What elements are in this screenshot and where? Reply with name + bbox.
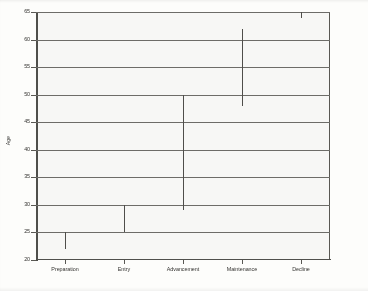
scan-edge-bottom bbox=[0, 287, 368, 291]
y-tick bbox=[31, 150, 36, 151]
y-tick-label: 35 bbox=[8, 174, 30, 179]
range-bar-preparation bbox=[65, 232, 66, 249]
y-tick bbox=[31, 95, 36, 96]
y-tick-label: 45 bbox=[8, 119, 30, 124]
x-tick bbox=[65, 260, 66, 264]
y-tick-label: 30 bbox=[8, 202, 30, 207]
x-tick bbox=[124, 260, 125, 264]
scan-edge-top bbox=[0, 0, 368, 3]
y-tick-label-wrap: 50 bbox=[4, 92, 30, 100]
y-tick-label-wrap: 65 bbox=[4, 9, 30, 17]
y-tick bbox=[31, 205, 36, 206]
range-bar-advancement bbox=[183, 95, 184, 211]
y-tick bbox=[31, 67, 36, 68]
y-tick-label: 50 bbox=[8, 92, 30, 97]
y-tick bbox=[31, 177, 36, 178]
gridline bbox=[36, 67, 330, 68]
y-tick-label: 55 bbox=[8, 64, 30, 69]
x-category-label-maintenance: Maintenance bbox=[227, 266, 257, 272]
range-bar-maintenance bbox=[242, 29, 243, 106]
gridline bbox=[36, 40, 330, 41]
gridline bbox=[36, 232, 330, 233]
y-tick-label: 25 bbox=[8, 229, 30, 234]
y-tick bbox=[31, 40, 36, 41]
x-category-label-preparation: Preparation bbox=[51, 266, 78, 272]
gridline bbox=[36, 12, 330, 13]
range-bar-decline bbox=[301, 12, 302, 18]
y-tick bbox=[31, 12, 36, 13]
y-tick-label-wrap: 35 bbox=[4, 174, 30, 182]
x-category-label-entry: Entry bbox=[118, 266, 130, 272]
y-tick-label-wrap: 55 bbox=[4, 64, 30, 72]
y-tick-label-wrap: 60 bbox=[4, 37, 30, 45]
y-tick-label-wrap: 30 bbox=[4, 202, 30, 210]
y-tick-label: 20 bbox=[8, 257, 30, 262]
y-tick bbox=[31, 122, 36, 123]
y-axis-title: Age bbox=[6, 126, 11, 156]
y-tick-label: 60 bbox=[8, 37, 30, 42]
range-chart: 20253035404550556065 PreparationEntryAdv… bbox=[0, 0, 368, 291]
range-bar-entry bbox=[124, 205, 125, 233]
x-category-label-decline: Decline bbox=[292, 266, 310, 272]
y-tick-label-wrap: 25 bbox=[4, 229, 30, 237]
y-tick-label: 65 bbox=[8, 9, 30, 14]
y-tick bbox=[31, 232, 36, 233]
x-tick bbox=[183, 260, 184, 264]
x-tick bbox=[242, 260, 243, 264]
y-tick bbox=[31, 260, 36, 261]
x-tick bbox=[301, 260, 302, 264]
y-axis-line bbox=[36, 12, 38, 261]
y-tick-label-wrap: 20 bbox=[4, 257, 30, 265]
x-category-label-advancement: Advancement bbox=[167, 266, 199, 272]
